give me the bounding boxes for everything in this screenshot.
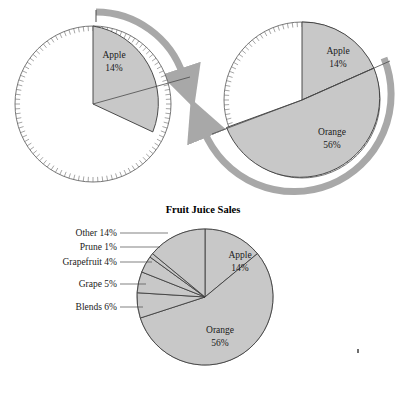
slice-percent-apple: 14% [329, 59, 347, 69]
callout-label-grapefruit: Grapefruit 4% [62, 257, 117, 267]
scan-artifact-speck [357, 349, 359, 353]
slice-label-apple: Apple [102, 50, 125, 60]
callout-label-prune: Prune 1% [80, 242, 117, 252]
callout-label-grape: Grape 5% [79, 279, 117, 289]
slice-label-apple: Apple [228, 250, 251, 260]
chart-title: Fruit Juice Sales [166, 204, 241, 215]
figure-canvas: Apple 14% Apple 14% Orange 56% [0, 0, 405, 402]
slice-percent-apple: 14% [231, 263, 249, 273]
pie-slices-group [137, 229, 273, 365]
slice-label-apple: Apple [326, 46, 349, 56]
pie-chart-figure: Apple 14% Apple 14% Orange 56% [0, 0, 405, 402]
panel-top-right: Apple 14% Orange 56% [204, 22, 391, 192]
panel-bottom: Other 14% Prune 1% Grapefruit 4% Grape 5… [62, 228, 273, 365]
panel-top-left: Apple 14% [15, 10, 190, 182]
slice-label-orange: Orange [318, 127, 346, 137]
slice-percent-orange: 56% [211, 338, 229, 348]
slice-percent-apple: 14% [105, 63, 123, 73]
slice-label-orange: Orange [206, 325, 234, 335]
callout-label-other: Other 14% [76, 228, 118, 238]
callout-label-blends: Blends 6% [76, 302, 118, 312]
slice-percent-orange: 56% [323, 140, 341, 150]
